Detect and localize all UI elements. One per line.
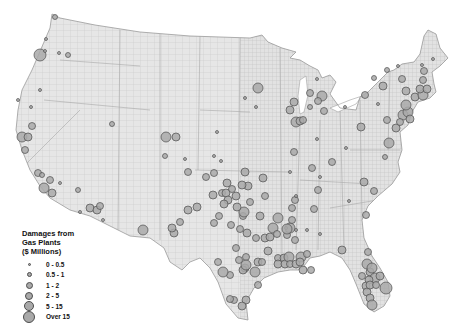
- plant-bubble: [289, 217, 296, 224]
- plant-bubble: [406, 115, 414, 123]
- plant-bubble: [306, 229, 309, 232]
- legend-title-2: Gas Plants: [22, 238, 132, 247]
- plant-bubble: [48, 189, 56, 197]
- circle-icon: [28, 263, 31, 266]
- plant-bubble: [259, 174, 267, 182]
- circle-icon: [26, 282, 33, 289]
- legend: Damages from Gas Plants ($ Millions) 0 -…: [22, 229, 132, 322]
- plant-bubble: [282, 224, 292, 234]
- plant-bubble: [238, 181, 246, 189]
- legend-row: 0.5 - 1: [22, 270, 132, 281]
- plant-bubble: [295, 195, 298, 198]
- plant-bubble: [344, 106, 347, 109]
- plant-bubble: [379, 82, 387, 90]
- plant-bubble: [420, 77, 427, 84]
- plant-bubble: [53, 15, 58, 20]
- plant-bubble: [229, 186, 236, 193]
- plant-bubble: [289, 205, 296, 212]
- circle-icon: [23, 311, 35, 323]
- plant-bubble: [216, 213, 223, 220]
- plant-bubble: [97, 203, 104, 210]
- plant-bubble: [193, 203, 201, 211]
- plant-bubble: [421, 68, 428, 75]
- plant-bubble: [309, 165, 316, 172]
- plant-bubble: [76, 188, 81, 193]
- plant-bubble: [250, 267, 260, 277]
- plant-bubble: [30, 106, 33, 109]
- plant-bubble: [423, 85, 431, 93]
- plant-bubble: [255, 106, 258, 109]
- circle-icon: [24, 301, 34, 311]
- plant-bubble: [383, 155, 388, 160]
- plant-bubble: [384, 138, 394, 148]
- plant-bubble: [243, 254, 250, 261]
- plant-bubble: [399, 76, 406, 83]
- plant-bubble: [255, 282, 262, 289]
- legend-title-1: Damages from: [22, 229, 132, 238]
- plant-bubble: [421, 64, 424, 67]
- plant-bubble: [59, 182, 62, 185]
- plant-bubble: [238, 302, 246, 310]
- plant-bubble: [338, 246, 346, 254]
- plant-bubble: [402, 87, 410, 95]
- plant-bubble: [211, 220, 218, 227]
- plant-bubble: [79, 211, 82, 214]
- plant-bubble: [300, 117, 307, 124]
- plant-bubble: [296, 258, 304, 266]
- plant-bubble: [40, 173, 45, 178]
- plant-bubble: [286, 106, 294, 114]
- plant-bubble: [321, 108, 328, 115]
- plant-bubble: [329, 159, 336, 166]
- plant-bubble: [262, 193, 269, 200]
- plant-bubble: [291, 149, 298, 156]
- plant-bubble: [211, 170, 218, 177]
- plant-bubble: [319, 233, 322, 236]
- plant-bubble: [316, 78, 319, 81]
- legend-row: 0 - 0.5: [22, 259, 132, 270]
- plant-bubble: [24, 133, 32, 141]
- plant-bubble: [227, 296, 234, 303]
- plant-bubble: [264, 247, 272, 255]
- circle-icon: [25, 292, 33, 300]
- plant-bubble: [299, 266, 307, 274]
- plant-bubble: [110, 122, 115, 127]
- plant-bubble: [161, 132, 171, 142]
- plant-bubble: [253, 235, 260, 242]
- plant-bubble: [295, 229, 298, 232]
- legend-label: 0.5 - 1: [46, 271, 64, 278]
- plant-bubble: [307, 90, 314, 97]
- legend-label: 0 - 0.5: [46, 261, 64, 268]
- plant-bubble: [359, 273, 366, 280]
- plant-bubble: [315, 187, 322, 194]
- plant-bubble: [372, 76, 377, 81]
- plant-bubble: [377, 103, 380, 106]
- plant-bubble: [233, 203, 241, 211]
- plant-bubble: [362, 92, 369, 99]
- plant-bubble: [163, 154, 168, 159]
- plant-bubble: [220, 160, 223, 163]
- plant-bubble: [367, 300, 377, 310]
- plant-bubble: [348, 200, 351, 203]
- plant-bubble: [39, 183, 49, 193]
- plant-bubble: [244, 97, 247, 100]
- legend-label: Over 15: [46, 313, 70, 320]
- plant-bubble: [365, 249, 372, 256]
- plant-bubble: [233, 245, 240, 252]
- plant-bubble: [376, 272, 384, 280]
- circle-icon: [27, 272, 32, 277]
- legend-row: 5 - 15: [22, 301, 132, 312]
- plant-bubble: [259, 259, 266, 266]
- legend-row: Over 15: [22, 312, 132, 323]
- plant-bubble: [47, 177, 54, 184]
- plant-bubble: [45, 38, 48, 41]
- plant-bubble: [432, 58, 435, 61]
- plant-bubble: [289, 171, 292, 174]
- plant-bubble: [138, 225, 148, 235]
- plant-bubble: [319, 176, 322, 179]
- plant-bubble: [256, 212, 264, 220]
- plant-bubble: [304, 251, 311, 258]
- legend-title-3: ($ Millions): [22, 247, 132, 256]
- plant-bubble: [209, 191, 217, 199]
- plant-bubble: [397, 119, 404, 126]
- plant-bubble: [44, 50, 47, 53]
